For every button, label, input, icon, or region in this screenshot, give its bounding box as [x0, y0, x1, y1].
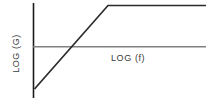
y-axis-label: LOG (G): [11, 24, 22, 84]
plot-canvas: [0, 0, 212, 105]
figure-container: LOG (G) LOG (f): [0, 0, 212, 105]
x-axis-label: LOG (f): [111, 53, 145, 63]
